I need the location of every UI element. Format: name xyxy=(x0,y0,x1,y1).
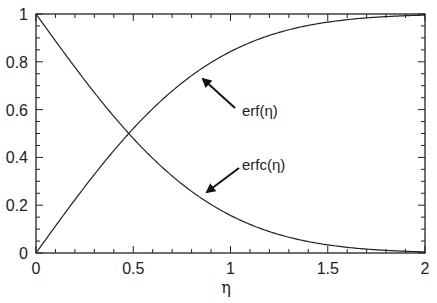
x-axis-title: η xyxy=(221,278,231,297)
erfc-curve xyxy=(36,14,425,252)
erf-arrow xyxy=(203,79,235,108)
erf-annotation: erf(η) xyxy=(242,102,278,119)
x-tick-label: 0 xyxy=(32,260,41,277)
x-tick-label: 1.5 xyxy=(317,260,339,277)
tick-labels: 00.511.5200.20.40.60.81 xyxy=(6,6,430,277)
y-tick-label: 0.4 xyxy=(6,149,28,166)
y-tick-label: 0.8 xyxy=(6,54,28,71)
x-tick-label: 1 xyxy=(226,260,235,277)
y-tick-label: 1 xyxy=(19,6,28,23)
x-tick-label: 0.5 xyxy=(122,260,144,277)
erf-curve xyxy=(36,15,425,253)
axis-ticks xyxy=(36,14,425,253)
y-tick-label: 0.6 xyxy=(6,102,28,119)
y-tick-label: 0 xyxy=(19,245,28,262)
erfc-annotation: erfc(η) xyxy=(242,156,285,173)
error-function-chart: 00.511.5200.20.40.60.81 erf(η) erfc(η) η xyxy=(0,0,437,303)
erfc-arrow xyxy=(207,168,239,192)
y-tick-label: 0.2 xyxy=(6,197,28,214)
x-tick-label: 2 xyxy=(421,260,430,277)
plot-frame xyxy=(36,14,425,253)
